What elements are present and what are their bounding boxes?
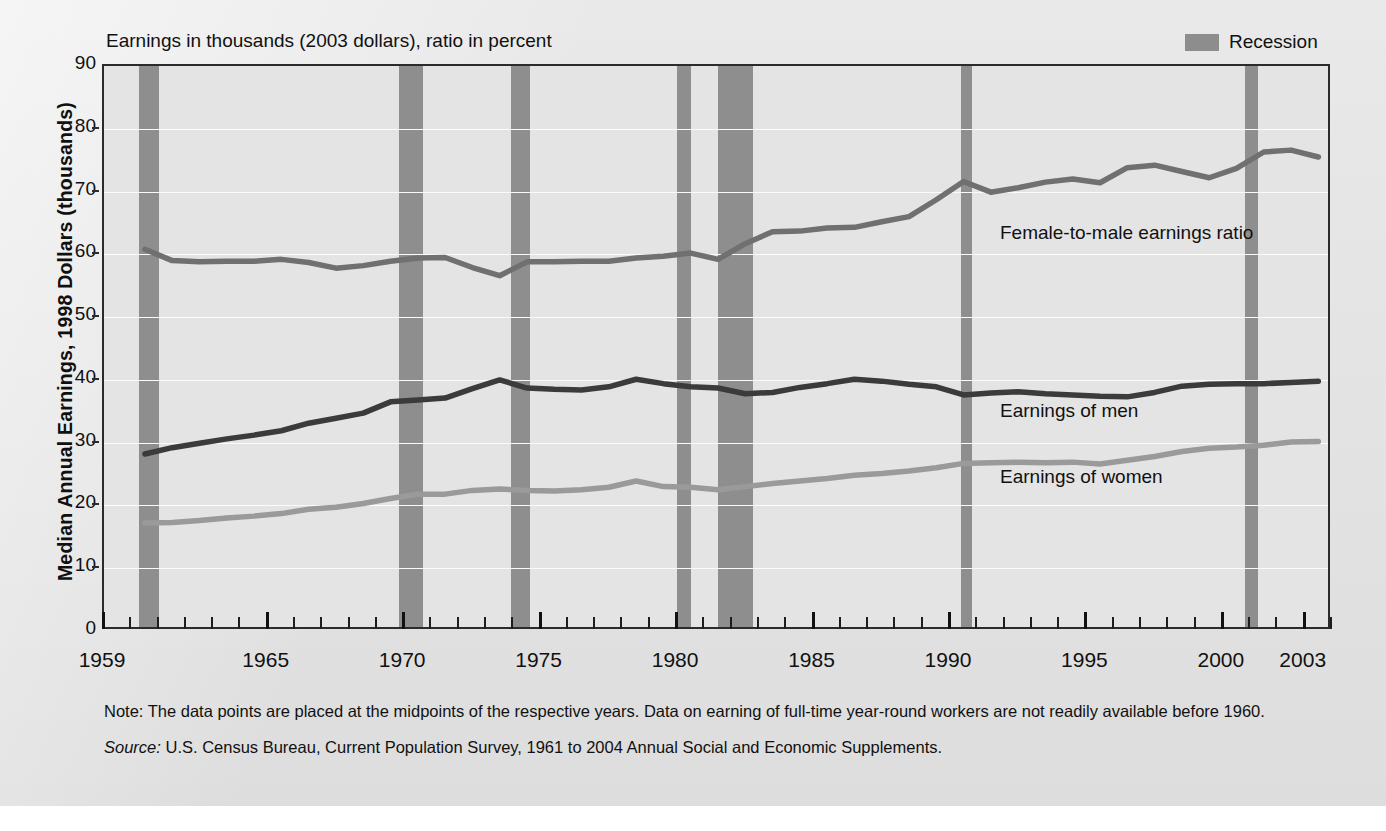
y-tick-label: 80 bbox=[50, 115, 96, 137]
x-tick-mark bbox=[184, 617, 186, 629]
x-tick-label: 1975 bbox=[515, 648, 562, 672]
x-tick-label: 1959 bbox=[79, 648, 126, 672]
x-tick-mark bbox=[1003, 617, 1005, 629]
x-tick-mark bbox=[129, 617, 131, 629]
x-tick-mark bbox=[730, 617, 732, 629]
x-tick-mark-major bbox=[539, 612, 542, 629]
source-label: Source: bbox=[104, 738, 161, 756]
x-tick-mark bbox=[593, 617, 595, 629]
x-tick-mark-major bbox=[402, 612, 405, 629]
x-tick-mark-major bbox=[266, 612, 269, 629]
x-tick-mark bbox=[320, 617, 322, 629]
x-tick-mark bbox=[1057, 617, 1059, 629]
x-tick-mark bbox=[784, 617, 786, 629]
y-tick-mark bbox=[92, 441, 99, 443]
recession-swatch-icon bbox=[1185, 34, 1219, 51]
x-tick-mark bbox=[648, 617, 650, 629]
x-tick-mark bbox=[1248, 617, 1250, 629]
y-tick-mark bbox=[92, 315, 99, 317]
bottom-strip bbox=[0, 806, 1386, 831]
notes-block: Note: The data points are placed at the … bbox=[104, 700, 1344, 759]
x-tick-mark bbox=[238, 617, 240, 629]
x-tick-label: 2000 bbox=[1197, 648, 1244, 672]
x-tick-mark bbox=[1030, 617, 1032, 629]
x-tick-mark bbox=[1330, 617, 1332, 629]
x-tick-mark bbox=[211, 617, 213, 629]
note-text: Note: The data points are placed at the … bbox=[104, 700, 1344, 722]
x-tick-mark bbox=[1166, 617, 1168, 629]
series-line bbox=[145, 150, 1318, 276]
x-tick-mark bbox=[348, 617, 350, 629]
y-tick-mark bbox=[92, 190, 99, 192]
x-tick-mark bbox=[921, 617, 923, 629]
y-tick-mark bbox=[92, 127, 99, 129]
series-line bbox=[145, 379, 1318, 454]
x-tick-mark-major bbox=[1303, 612, 1306, 629]
x-tick-mark bbox=[511, 617, 513, 629]
x-tick-mark bbox=[1139, 617, 1141, 629]
x-tick-mark-major bbox=[948, 612, 951, 629]
y-tick-label: 10 bbox=[50, 554, 96, 576]
x-tick-mark bbox=[429, 617, 431, 629]
legend-label-recession: Recession bbox=[1229, 31, 1318, 53]
y-tick-label: 30 bbox=[50, 429, 96, 451]
plot-area-wrapper bbox=[102, 64, 1330, 629]
y-tick-label: 40 bbox=[50, 366, 96, 388]
x-tick-label: 2003 bbox=[1279, 648, 1326, 672]
x-tick-label: 1985 bbox=[788, 648, 835, 672]
x-tick-mark bbox=[975, 617, 977, 629]
x-tick-mark bbox=[1112, 617, 1114, 629]
x-tick-mark bbox=[457, 617, 459, 629]
x-tick-mark bbox=[1194, 617, 1196, 629]
x-tick-mark-major bbox=[675, 612, 678, 629]
x-tick-mark bbox=[1275, 617, 1277, 629]
chart-caption: Earnings in thousands (2003 dollars), ra… bbox=[106, 30, 552, 52]
x-tick-mark bbox=[293, 617, 295, 629]
x-tick-mark bbox=[757, 617, 759, 629]
x-tick-mark bbox=[375, 617, 377, 629]
x-axis-labels: 1959196519701975198019851990199520002003 bbox=[102, 648, 1362, 682]
y-tick-label: 70 bbox=[50, 178, 96, 200]
y-tick-label: 50 bbox=[50, 303, 96, 325]
x-tick-label: 1990 bbox=[925, 648, 972, 672]
y-tick-mark bbox=[92, 378, 99, 380]
x-tick-mark-major bbox=[812, 612, 815, 629]
source-text: U.S. Census Bureau, Current Population S… bbox=[165, 738, 942, 756]
x-tick-mark-major bbox=[1084, 612, 1087, 629]
x-tick-mark bbox=[157, 617, 159, 629]
x-tick-mark bbox=[484, 617, 486, 629]
y-tick-mark bbox=[92, 252, 99, 254]
x-axis-ticks bbox=[102, 629, 1330, 642]
series-annotation-women: Earnings of women bbox=[1000, 466, 1163, 488]
x-tick-mark bbox=[620, 617, 622, 629]
x-tick-mark-major bbox=[1221, 612, 1224, 629]
x-tick-mark bbox=[839, 617, 841, 629]
series-annotation-ratio: Female-to-male earnings ratio bbox=[1000, 222, 1253, 244]
y-tick-label: 90 bbox=[50, 52, 96, 74]
series-lines bbox=[104, 66, 1332, 631]
y-tick-label: 0 bbox=[50, 617, 96, 639]
x-tick-label: 1980 bbox=[652, 648, 699, 672]
y-axis-ticks: 0102030405060708090 bbox=[44, 64, 96, 629]
y-tick-mark bbox=[92, 503, 99, 505]
x-tick-mark-major bbox=[102, 612, 105, 629]
x-tick-label: 1995 bbox=[1061, 648, 1108, 672]
x-tick-label: 1970 bbox=[379, 648, 426, 672]
source-line: Source: U.S. Census Bureau, Current Popu… bbox=[104, 736, 1344, 758]
x-tick-label: 1965 bbox=[242, 648, 289, 672]
legend: Recession bbox=[1185, 31, 1318, 53]
y-tick-label: 20 bbox=[50, 491, 96, 513]
y-tick-label: 60 bbox=[50, 240, 96, 262]
x-tick-mark bbox=[702, 617, 704, 629]
x-tick-mark bbox=[866, 617, 868, 629]
x-tick-mark bbox=[566, 617, 568, 629]
series-annotation-men: Earnings of men bbox=[1000, 400, 1138, 422]
x-tick-mark bbox=[893, 617, 895, 629]
plot-area bbox=[102, 64, 1330, 629]
y-tick-mark bbox=[92, 566, 99, 568]
figure-panel: Median Annual Earnings, 1998 Dollars (th… bbox=[0, 0, 1386, 806]
